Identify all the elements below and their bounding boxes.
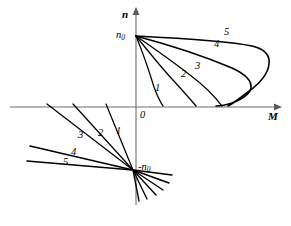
lower-curve-label-3: 3 xyxy=(78,130,83,141)
lower-anchor-subscript: 0 xyxy=(147,165,151,174)
lower-extension-stubs xyxy=(133,170,172,201)
characteristic-curve-figure: n M 0 n0 -n0 1 2 3 4 5 1 2 3 4 5 xyxy=(0,0,291,226)
origin-label: 0 xyxy=(140,110,145,121)
torque-axis-label: M xyxy=(268,111,278,122)
speed-axis-arrowhead xyxy=(133,7,140,15)
upper-curve-label-4: 4 xyxy=(214,39,219,50)
upper-curve-family xyxy=(136,36,269,106)
upper-curve-1 xyxy=(136,36,163,106)
plot-canvas xyxy=(0,0,291,226)
upper-curve-label-1: 1 xyxy=(155,83,160,94)
lower-curve-label-5: 5 xyxy=(63,157,68,168)
upper-curve-2 xyxy=(136,36,196,106)
lower-curve-label-2: 2 xyxy=(98,128,103,139)
upper-curve-label-2: 2 xyxy=(181,69,186,80)
upper-curve-label-3: 3 xyxy=(195,61,200,72)
lower-curve-label-1: 1 xyxy=(116,126,121,137)
lower-curve-label-4: 4 xyxy=(71,147,76,158)
upper-curve-5 xyxy=(136,36,269,106)
upper-curve-label-5: 5 xyxy=(224,27,229,38)
lower-anchor-symbol: -n xyxy=(138,161,147,172)
lower-anchor-label: -n0 xyxy=(138,162,151,173)
speed-axis-label: n xyxy=(122,9,128,20)
upper-curve-4 xyxy=(136,36,251,106)
upper-anchor-subscript: 0 xyxy=(121,33,125,42)
upper-anchor-label: n0 xyxy=(116,30,125,41)
